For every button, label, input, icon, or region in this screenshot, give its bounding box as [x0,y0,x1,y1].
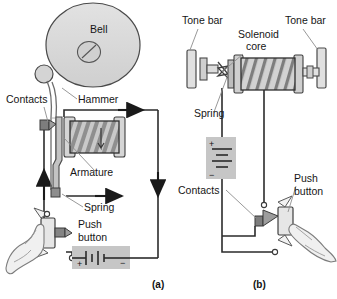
label-button-a: button [78,231,107,243]
label-bell: Bell [90,23,108,35]
label-push-a: Push [78,218,102,230]
label-solenoid: Solenoid [238,28,279,40]
label-spring-a: Spring [84,201,115,213]
battery-minus-b: − [209,170,214,180]
label-button-b: button [294,185,323,197]
label-core: core [246,40,267,52]
label-hammer: Hammer [78,93,119,105]
solenoid-coil-icon [64,117,125,157]
battery-icon-b: + − [206,137,236,180]
panel-caption-a: (a) [152,279,164,290]
label-push-b: Push [294,172,318,184]
bell-solenoid-diagram: + − Bell Hammer Contacts Armature Spring… [0,0,337,299]
label-spring-b: Spring [194,107,225,119]
spring-icon [51,188,60,197]
battery-plus-a: + [77,259,82,269]
label-contacts-a: Contacts [6,93,47,105]
label-tone-bar-left: Tone bar [182,14,223,26]
battery-plus-b: + [209,139,214,149]
panel-caption-b: (b) [253,279,266,290]
label-tone-bar-right: Tone bar [285,14,326,26]
figure-canvas: + − Bell Hammer Contacts Armature Spring… [0,0,337,299]
bell-disc-icon [46,3,140,87]
label-contacts-b: Contacts [178,184,219,196]
battery-icon: + − [72,246,130,269]
battery-minus-a: − [120,258,125,268]
label-armature: Armature [70,166,113,178]
